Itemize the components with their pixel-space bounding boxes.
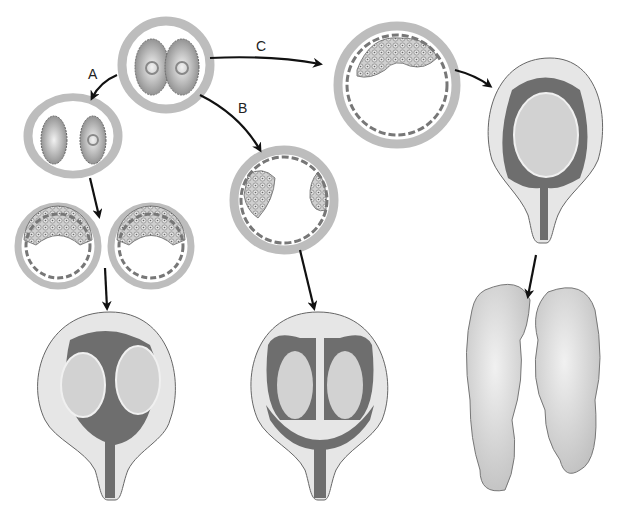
arrow-path-c [210, 57, 320, 64]
arrow-path-b [200, 95, 260, 150]
arrow-blastomeres-to-blastocyst [90, 178, 99, 216]
monoamniotic-uterus [488, 58, 602, 243]
blastocyst-two-icm [234, 150, 334, 250]
separated-blastomeres [28, 97, 118, 174]
monochorionic-diamniotic-uterus [251, 312, 388, 500]
label-path-b: B [238, 100, 247, 116]
dichorionic-uterus [38, 312, 176, 500]
label-path-c: C [256, 38, 266, 54]
blastocyst-single-icm [338, 26, 456, 144]
arrow-to-conjoined [528, 255, 536, 296]
arrow-to-dichorionic [105, 268, 107, 308]
conjoined-twins [466, 284, 600, 490]
label-path-a: A [88, 66, 97, 82]
arrow-to-diamniotic [300, 250, 314, 308]
two-cell-embryo [122, 21, 210, 109]
